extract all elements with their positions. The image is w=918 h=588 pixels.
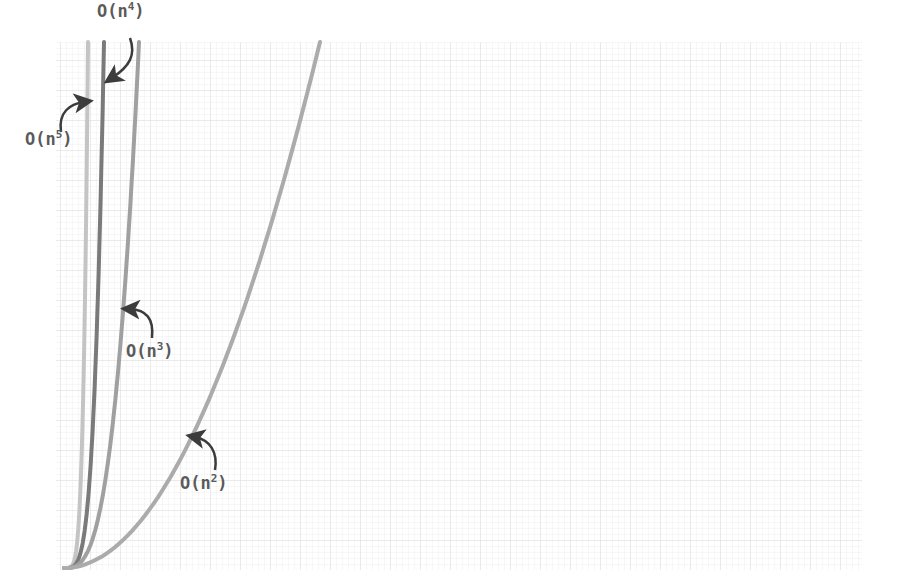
label-n4-close: ) — [134, 1, 144, 21]
label-n5-close: ) — [62, 129, 72, 149]
label-n4: O(n4) — [97, 0, 145, 21]
complexity-chart — [0, 0, 918, 588]
label-n5-base: O(n — [25, 129, 56, 149]
label-n5: O(n5) — [25, 128, 73, 149]
label-n4-base: O(n — [97, 1, 128, 21]
label-n2-base: O(n — [180, 473, 211, 493]
label-n2: O(n2) — [180, 472, 228, 493]
label-n2-close: ) — [217, 473, 227, 493]
plot-grid — [56, 42, 862, 570]
label-n3-base: O(n — [126, 341, 157, 361]
label-n3: O(n3) — [126, 340, 174, 361]
label-n3-close: ) — [163, 341, 173, 361]
